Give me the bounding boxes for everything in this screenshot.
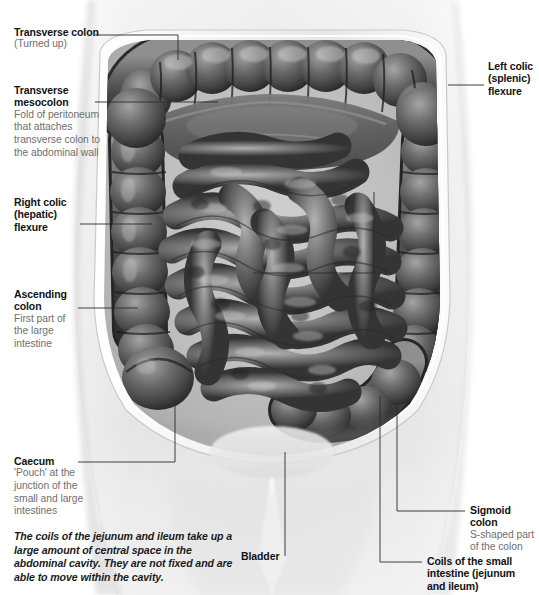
label-bladder: Bladder — [241, 550, 301, 562]
label-transverse-colon-sub: (Turned up) — [14, 38, 119, 51]
label-left-colic-flexure: Left colic (splenic) flexure — [488, 60, 538, 97]
label-ascending-colon-sub: First part of the large intestine — [14, 313, 110, 351]
label-transverse-mesocolon-title: Transverse mesocolon — [14, 84, 124, 109]
small-intestine-coils — [172, 145, 394, 398]
label-sigmoid-colon-sub: S-shaped part of the colon — [470, 529, 539, 554]
label-right-colic-flexure: Right colic (hepatic) flexure — [14, 196, 110, 233]
label-ascending-colon-title: Ascending colon — [14, 288, 110, 313]
caecum — [122, 346, 194, 410]
label-transverse-mesocolon: Transverse mesocolon Fold of peritoneum … — [14, 84, 124, 159]
label-ascending-colon: Ascending colon First part of the large … — [14, 288, 110, 351]
anatomy-figure-page: Transverse colon (Turned up) Transverse … — [0, 0, 539, 595]
bladder — [210, 426, 334, 478]
label-sigmoid-colon-title: Sigmoid colon — [470, 504, 539, 529]
label-left-colic-flexure-title: Left colic (splenic) flexure — [488, 60, 538, 97]
figure-caption: The coils of the jejunum and ileum take … — [14, 530, 239, 584]
label-small-intestine-coils: Coils of the small intestine (jejunum an… — [427, 555, 539, 592]
label-caecum-sub: 'Pouch' at the junction of the small and… — [14, 467, 114, 517]
label-transverse-mesocolon-sub: Fold of peritoneum that attaches transve… — [14, 109, 124, 159]
label-small-intestine-coils-title: Coils of the small intestine (jejunum an… — [427, 555, 539, 592]
label-bladder-title: Bladder — [241, 550, 301, 562]
label-transverse-colon-title: Transverse colon — [14, 26, 119, 38]
label-right-colic-flexure-title: Right colic (hepatic) flexure — [14, 196, 110, 233]
label-sigmoid-colon: Sigmoid colon S-shaped part of the colon — [470, 504, 539, 554]
label-transverse-colon: Transverse colon (Turned up) — [14, 26, 119, 51]
label-caecum: Caecum 'Pouch' at the junction of the sm… — [14, 455, 114, 518]
abdominal-cavity-contents — [94, 28, 456, 470]
label-caecum-title: Caecum — [14, 455, 114, 467]
